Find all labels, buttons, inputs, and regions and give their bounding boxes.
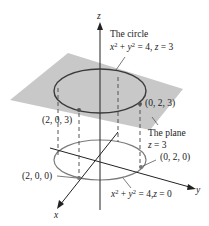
eq-zval: = 3: [161, 42, 173, 52]
y-axis-label: y: [196, 186, 200, 196]
x-axis-label: x: [54, 211, 58, 221]
plane-z3: [10, 53, 183, 130]
eq-zval: = 0: [159, 189, 171, 199]
plane-equation: z = 3: [148, 141, 167, 151]
point-020: [139, 165, 143, 169]
plane-eq-z: z: [148, 140, 152, 150]
x-axis: [60, 132, 118, 205]
circle-top-title: The circle: [110, 30, 148, 40]
circle-top-equation: x2 + y2 = 4, z = 3: [110, 43, 173, 53]
eq-z: z: [155, 42, 159, 52]
point-200: [77, 176, 81, 180]
eq-exp: 2: [115, 188, 118, 195]
plane-title: The plane: [148, 129, 186, 139]
eq-exp: 2: [114, 41, 117, 48]
cylinder-circle-diagram: [0, 0, 209, 226]
z-axis-arrow: [97, 22, 103, 30]
point-203-label: (2, 0, 3): [42, 116, 72, 126]
eq-exp: 2: [133, 188, 136, 195]
eq-exp: 2: [132, 41, 135, 48]
eq-rest: = 4,: [138, 189, 153, 199]
plane-eq-val: = 3: [154, 140, 166, 150]
point-200-label: (2, 0, 0): [22, 172, 52, 182]
eq-rest: = 4,: [137, 42, 152, 52]
circle-bottom-equation: x2 + y2 = 4,z = 0: [111, 190, 172, 200]
eq-z: z: [153, 189, 157, 199]
point-023-label: (0, 2, 3): [145, 99, 175, 109]
z-axis-label: z: [97, 12, 101, 22]
point-020-label: (0, 2, 0): [160, 153, 190, 163]
point-023: [138, 102, 142, 106]
y-axis-arrow: [187, 184, 196, 190]
point-203: [77, 108, 81, 112]
